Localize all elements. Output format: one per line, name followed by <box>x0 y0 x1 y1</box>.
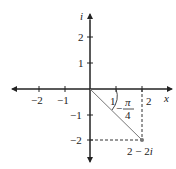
angle-sign: − <box>116 102 122 114</box>
y-tick-neg1: −1 <box>70 109 82 121</box>
point-label: 2 − 2i <box>127 145 153 157</box>
y-tick-2: 2 <box>78 31 84 43</box>
x-tick-2: 2 <box>146 95 152 107</box>
angle-denominator: 4 <box>125 109 131 121</box>
y-axis-label: i <box>80 10 83 22</box>
x-tick-neg2: −2 <box>31 94 43 106</box>
y-tick-neg2: −2 <box>70 134 82 146</box>
angle-numerator: π <box>125 96 131 108</box>
x-axis-label: x <box>163 92 169 104</box>
point-marker <box>140 138 144 142</box>
complex-plane-diagram: −2 −1 1 2 x 2 1 −1 −2 i − π 4 2 − 2i <box>0 0 176 169</box>
y-tick-1: 1 <box>78 57 84 69</box>
radius-segment <box>90 89 142 140</box>
x-tick-neg1: −1 <box>57 94 69 106</box>
